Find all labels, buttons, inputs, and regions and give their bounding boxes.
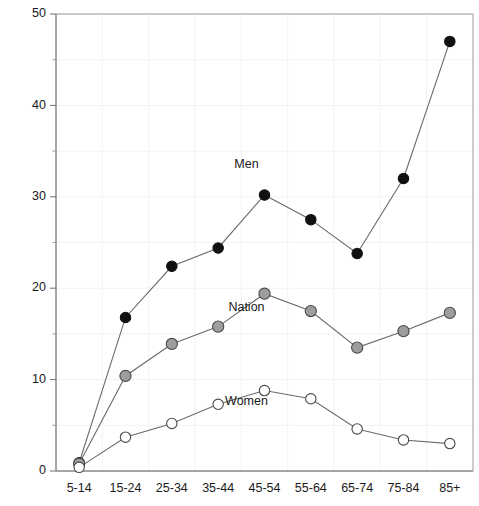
data-point-men	[259, 190, 269, 200]
y-tick-label: 30	[32, 189, 46, 203]
data-point-nation	[444, 307, 455, 318]
x-tick-label: 75-84	[388, 481, 420, 495]
data-point-nation	[120, 370, 131, 381]
y-axis-tick-labels: 01020304050	[32, 6, 46, 477]
x-tick-label: 45-54	[249, 481, 281, 495]
data-point-nation	[213, 321, 224, 332]
y-tick-label: 20	[32, 280, 46, 294]
data-point-women	[167, 418, 177, 428]
x-tick-label: 35-44	[202, 481, 234, 495]
data-point-men	[445, 36, 455, 46]
series-label-men: Men	[234, 157, 258, 171]
y-tick-label: 10	[32, 372, 46, 386]
data-point-men	[213, 243, 223, 253]
x-tick-label: 15-24	[110, 481, 142, 495]
data-point-women	[74, 462, 84, 472]
x-tick-label: 55-64	[295, 481, 327, 495]
x-tick-label: 5-14	[67, 481, 92, 495]
y-tick-label: 50	[32, 6, 46, 20]
y-tick-label: 0	[39, 463, 46, 477]
x-tick-label: 85+	[439, 481, 460, 495]
data-point-men	[120, 312, 130, 322]
data-point-nation	[398, 326, 409, 337]
line-chart: 01020304050 5-1415-2425-3435-4445-5455-6…	[0, 0, 479, 506]
data-point-men	[306, 214, 316, 224]
axis-ticks-group	[50, 14, 56, 471]
chart-container: 01020304050 5-1415-2425-3435-4445-5455-6…	[0, 0, 479, 506]
series-label-women: Women	[225, 394, 268, 408]
data-point-men	[167, 261, 177, 271]
data-point-women	[213, 399, 223, 409]
data-point-nation	[166, 338, 177, 349]
data-point-nation	[352, 342, 363, 353]
data-point-men	[352, 248, 362, 258]
data-point-women	[445, 438, 455, 448]
y-tick-label: 40	[32, 98, 46, 112]
data-point-women	[352, 424, 362, 434]
data-point-women	[306, 394, 316, 404]
data-point-nation	[259, 288, 270, 299]
x-tick-label: 25-34	[156, 481, 188, 495]
x-axis-tick-labels: 5-1415-2425-3435-4445-5455-6465-7475-848…	[67, 481, 461, 495]
data-point-women	[398, 435, 408, 445]
data-point-women	[120, 432, 130, 442]
x-tick-label: 65-74	[341, 481, 373, 495]
data-point-men	[398, 173, 408, 183]
series-label-nation: Nation	[228, 300, 264, 314]
data-point-nation	[305, 305, 316, 316]
